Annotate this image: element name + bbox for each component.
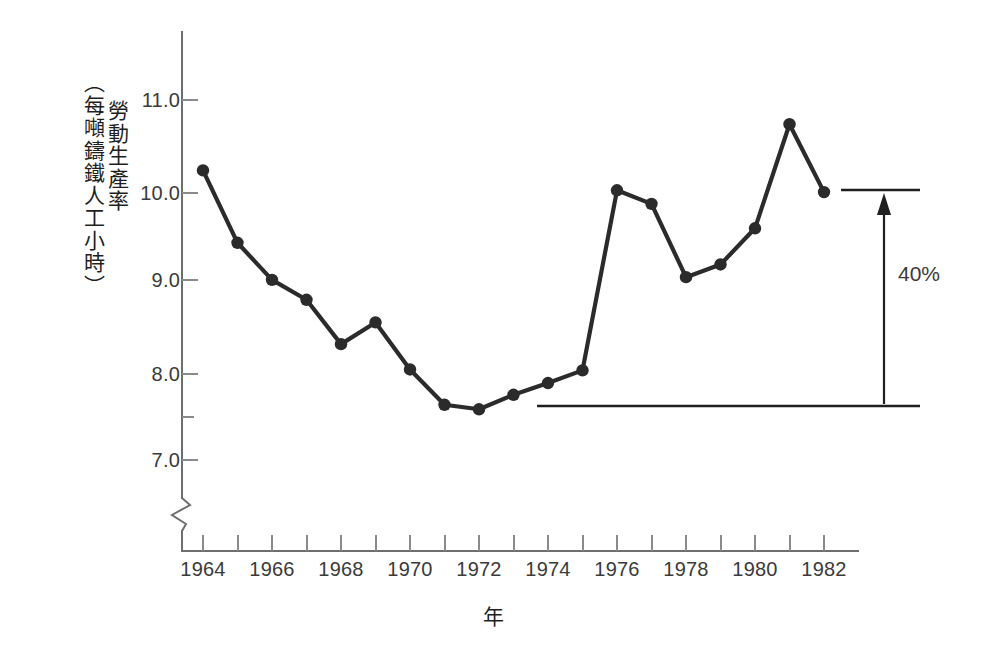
data-point [369,316,381,328]
x-tick-label-1980: 1980 [732,558,777,581]
x-axis-title: 年 [0,600,987,630]
growth-percent-label: 40% [898,262,940,286]
y-axis-title-unit: （每噸鑄鐵人工小時） [82,72,104,297]
data-point [335,338,347,350]
y-tick-label-9: 9.0 [120,269,180,292]
data-point [404,363,416,375]
data-point [645,198,657,210]
x-tick-label-1968: 1968 [318,558,363,581]
y-axis-title: 勞動生產率 （每噸鑄鐵人工小時） [42,72,128,372]
x-tick-label-1970: 1970 [387,558,432,581]
data-point [542,377,554,389]
x-tick-label-1978: 1978 [663,558,708,581]
data-point [749,222,761,234]
x-tick-label-1964: 1964 [180,558,225,581]
y-axis-title-main: 勞動生產率 [106,100,128,213]
y-tick-label-8: 8.0 [120,363,180,386]
y-tick-label-10: 10.0 [120,182,180,205]
data-point [473,403,485,415]
x-tick-label-1974: 1974 [525,558,570,581]
x-tick-label-1966: 1966 [249,558,294,581]
data-point [818,186,830,198]
productivity-markers [197,118,830,415]
y-axis-ticks [182,100,198,460]
x-tick-label-1976: 1976 [594,558,639,581]
chart-figure: 11.0 10.0 9.0 8.0 7.0 1964 1966 1968 197… [0,0,987,656]
data-point [507,389,519,401]
x-tick-label-1972: 1972 [456,558,501,581]
y-tick-label-11: 11.0 [120,89,180,112]
data-point [576,364,588,376]
x-axis-ticks [203,535,824,551]
x-tick-label-1982: 1982 [801,558,846,581]
data-point [438,399,450,411]
y-tick-label-7: 7.0 [120,449,180,472]
growth-arrow-head-icon [877,193,891,215]
y-axis-break-icon [172,498,190,531]
data-point [783,118,795,130]
data-point [611,184,623,196]
data-point [231,237,243,249]
data-point [714,258,726,270]
data-point [266,274,278,286]
productivity-line [203,124,824,409]
data-point [300,294,312,306]
data-point [197,164,209,176]
data-point [680,271,692,283]
